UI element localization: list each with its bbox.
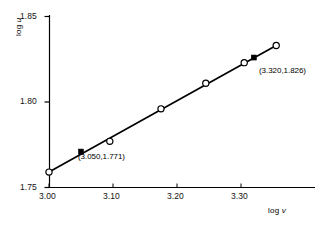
highlighted-point-marker (79, 149, 84, 154)
axes-group (45, 15, 316, 188)
highlighted-point-marker (251, 55, 256, 60)
data-point-marker (46, 169, 52, 175)
data-point-marker (107, 138, 113, 144)
y-axis-ticks (45, 17, 50, 188)
data-point-marker (273, 42, 279, 48)
highlighted-point-markers (79, 55, 257, 154)
data-group (46, 42, 279, 175)
plot-area (0, 0, 323, 227)
data-point-marker (203, 80, 209, 86)
chart-figure: log u 1.85 1.80 1.75 3.00 3.10 3.20 3.30… (0, 0, 323, 227)
data-point-marker (158, 106, 164, 112)
data-point-marker (241, 60, 247, 66)
